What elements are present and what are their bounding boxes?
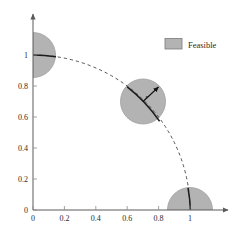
radius-label: r xyxy=(146,93,149,101)
y-tick-label-0.4: 0.4 xyxy=(18,144,28,153)
legend-label-feasible: Feasible xyxy=(188,40,217,50)
feasible-region-figure: r 0 0.2 0.4 0.6 0.8 1 xyxy=(0,0,244,242)
x-tick-label-0.6: 0.6 xyxy=(122,214,132,223)
plot-canvas: r 0 0.2 0.4 0.6 0.8 1 xyxy=(0,0,244,242)
x-tick-label-0.4: 0.4 xyxy=(91,214,101,223)
y-tick-label-0.8: 0.8 xyxy=(18,82,28,91)
y-tick-label-0.2: 0.2 xyxy=(18,175,28,184)
y-tick-label-1: 1 xyxy=(24,51,28,60)
y-tick-label-0.6: 0.6 xyxy=(18,113,28,122)
feasible-disk-group xyxy=(11,33,213,233)
legend-swatch-feasible xyxy=(165,39,182,50)
x-tick-label-0: 0 xyxy=(31,214,35,223)
constraint-arc-group xyxy=(33,55,190,210)
legend: Feasible xyxy=(165,39,217,50)
x-tick-label-0.8: 0.8 xyxy=(154,214,164,223)
x-tick-label-0.2: 0.2 xyxy=(59,214,69,223)
dashed-unit-circle-arc xyxy=(33,55,190,210)
y-tick-label-0: 0 xyxy=(24,206,28,215)
x-tick-label-1: 1 xyxy=(188,214,192,223)
